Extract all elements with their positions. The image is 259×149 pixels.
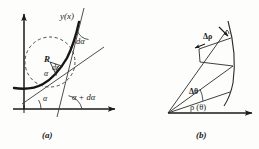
label-angle-increment-dalpha: dα xyxy=(76,37,85,46)
caption-panel-b: (b) xyxy=(196,131,207,140)
label-tangent-angle-alpha-plus-dalpha: α + dα xyxy=(72,93,95,102)
label-arc-element-ds: ds xyxy=(52,64,59,72)
caption-panel-a: (a) xyxy=(42,131,53,140)
figure-root: y(x) R ds α dα α α + dα (a) Δρ Δθ ρ (θ) … xyxy=(0,0,259,149)
element-chord-lower xyxy=(200,62,233,66)
panel-a-graphics xyxy=(13,8,115,117)
label-delta-theta: Δθ xyxy=(189,88,198,96)
figure-canvas xyxy=(0,0,259,149)
label-radius-R: R xyxy=(44,55,50,64)
label-delta-rho: Δρ xyxy=(203,33,212,41)
arc-tick-upper xyxy=(227,30,229,34)
label-curve-yx: y(x) xyxy=(60,12,74,21)
angle-arc-alpha xyxy=(39,100,41,109)
label-rho-theta: ρ (θ) xyxy=(190,103,206,112)
delta-theta-arc xyxy=(200,89,203,101)
element-side xyxy=(199,49,200,62)
label-tangent-angle-alpha: α xyxy=(43,95,47,103)
label-angle-at-center-alpha: α xyxy=(44,70,48,78)
